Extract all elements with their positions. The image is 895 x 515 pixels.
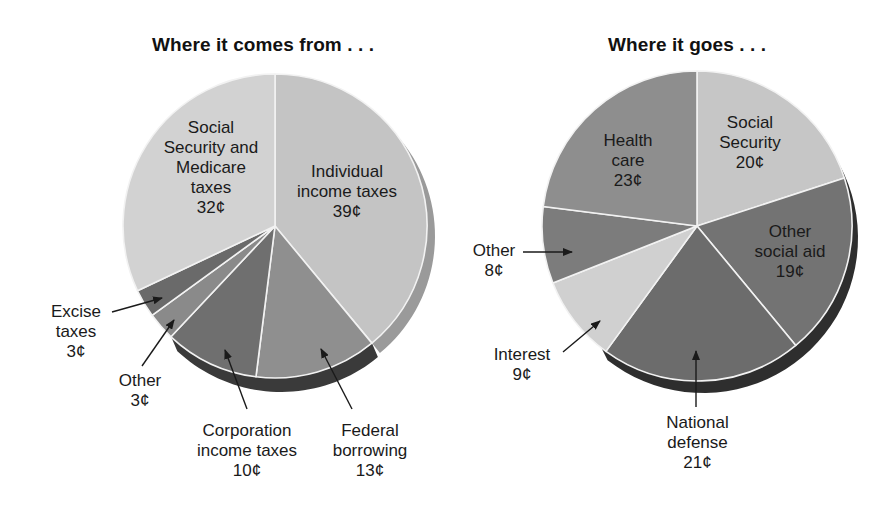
label-other-spending: Other 8¢ [464, 241, 524, 281]
label-line: Medicare [146, 158, 276, 178]
label-value: 8¢ [464, 261, 524, 281]
label-value: 3¢ [38, 342, 114, 362]
label-value: 23¢ [588, 171, 668, 191]
label-value: 13¢ [320, 461, 420, 481]
label-line: Corporation [184, 421, 310, 441]
label-federal-borrowing: Federal borrowing 13¢ [320, 421, 420, 481]
label-interest: Interest 9¢ [482, 345, 562, 385]
label-line: borrowing [320, 441, 420, 461]
label-value: 20¢ [705, 153, 795, 173]
label-line: Other [740, 222, 840, 242]
label-social-security: Social Security 20¢ [705, 113, 795, 173]
label-line: Health [588, 131, 668, 151]
label-other-revenue: Other 3¢ [110, 371, 170, 411]
label-line: Social [705, 113, 795, 133]
label-line: Interest [482, 345, 562, 365]
label-social-security-medicare: Social Security and Medicare taxes 32¢ [146, 118, 276, 218]
label-line: Other [464, 241, 524, 261]
label-national-defense: National defense 21¢ [650, 413, 745, 473]
label-line: care [588, 151, 668, 171]
label-line: social aid [740, 242, 840, 262]
label-line: Social [146, 118, 276, 138]
label-line: Excise [38, 302, 114, 322]
label-line: taxes [38, 322, 114, 342]
label-line: taxes [146, 178, 276, 198]
label-line: Federal [320, 421, 420, 441]
label-line: Other [110, 371, 170, 391]
label-line: Security [705, 133, 795, 153]
arrow-other-left [142, 320, 174, 366]
label-corporation-income-taxes: Corporation income taxes 10¢ [184, 421, 310, 481]
label-excise-taxes: Excise taxes 3¢ [38, 302, 114, 362]
label-value: 3¢ [110, 391, 170, 411]
label-value: 10¢ [184, 461, 310, 481]
label-line: National [650, 413, 745, 433]
label-individual-income-taxes: Individual income taxes 39¢ [282, 162, 412, 222]
label-line: Security and [146, 138, 276, 158]
label-line: income taxes [184, 441, 310, 461]
label-value: 39¢ [282, 202, 412, 222]
label-value: 19¢ [740, 262, 840, 282]
label-line: defense [650, 433, 745, 453]
label-other-social-aid: Other social aid 19¢ [740, 222, 840, 282]
label-line: Individual [282, 162, 412, 182]
label-value: 9¢ [482, 365, 562, 385]
label-health-care: Health care 23¢ [588, 131, 668, 191]
label-value: 21¢ [650, 453, 745, 473]
label-line: income taxes [282, 182, 412, 202]
label-value: 32¢ [146, 198, 276, 218]
